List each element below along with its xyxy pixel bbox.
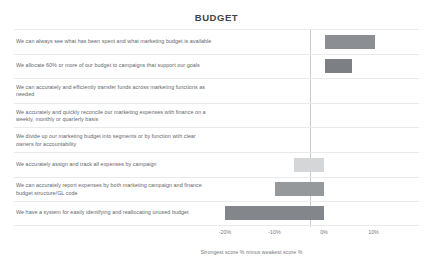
- row-label: We can accurately report expenses by bot…: [16, 182, 212, 197]
- chart-row: We can accurately report expenses by bot…: [14, 177, 419, 202]
- axis-caption-text: Strongest score % minus weakest score %: [201, 249, 303, 255]
- axis-tick-label: -20%: [219, 229, 231, 235]
- bar-value[interactable]: [325, 35, 375, 49]
- page-title: BUDGET: [0, 12, 433, 23]
- row-label: We have a system for easily identifying …: [16, 210, 212, 217]
- chart-row: We divide up our marketing budget into s…: [14, 127, 419, 152]
- chart-row: We accurately assign and track all expen…: [14, 152, 419, 177]
- axis-caption: Strongest score % minus weakest score %: [0, 249, 433, 255]
- row-label: We can always see what has been spent an…: [16, 38, 212, 45]
- x-axis: -20% -10% 0% 10%: [0, 229, 433, 241]
- row-label: We accurately assign and track all expen…: [16, 161, 212, 168]
- row-label: We allocate 60% or more of our budget to…: [16, 63, 212, 70]
- row-label: We divide up our marketing budget into s…: [16, 133, 212, 148]
- bar-value[interactable]: [275, 182, 325, 196]
- bar-value[interactable]: [294, 158, 324, 172]
- row-label: We can accurately and efficiently transf…: [16, 84, 212, 99]
- chart-row: We accurately and quickly reconcile our …: [14, 103, 419, 128]
- bar-value[interactable]: [325, 59, 352, 73]
- bar-value[interactable]: [225, 206, 324, 220]
- chart-row: We have a system for easily identifying …: [14, 201, 419, 226]
- chart-row: We can accurately and efficiently transf…: [14, 78, 419, 103]
- axis-tick-label: 0%: [320, 229, 328, 235]
- chart-row: We can always see what has been spent an…: [14, 29, 419, 54]
- axis-tick-label: -10%: [268, 229, 280, 235]
- chart-row: We allocate 60% or more of our budget to…: [14, 54, 419, 79]
- axis-tick-label: 10%: [368, 229, 379, 235]
- chart-plot-area: We can always see what has been spent an…: [0, 29, 433, 227]
- row-label: We accurately and quickly reconcile our …: [16, 108, 212, 123]
